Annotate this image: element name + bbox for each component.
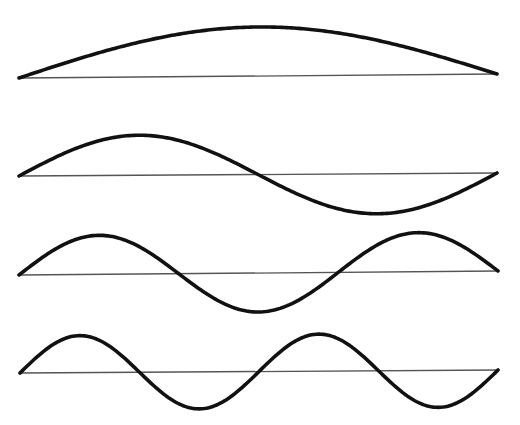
harmonic-1 (19, 27, 497, 78)
harmonic-2 (19, 135, 497, 214)
string-baseline (19, 74, 497, 78)
harmonic-4 (20, 334, 498, 409)
wave-curve (19, 27, 497, 78)
wave-curve (20, 334, 498, 409)
string-baseline (19, 271, 498, 275)
wave-curve (19, 233, 498, 312)
standing-waves-diagram (0, 0, 520, 425)
harmonic-3 (19, 233, 498, 312)
wave-curve (19, 135, 497, 214)
